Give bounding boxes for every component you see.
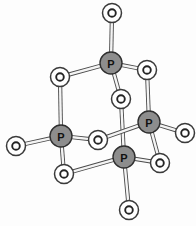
atom-oxygen-bridge-lower-left[interactable] — [55, 165, 74, 184]
bond-o3-p3 — [147, 78, 148, 113]
bond-p2-o7 — [70, 137, 90, 139]
bond-o4-p4 — [121, 107, 123, 148]
atom-phosphorus-right[interactable]: P — [138, 111, 160, 133]
bond-o2-p2 — [60, 85, 61, 127]
bond-p2-o9 — [62, 145, 64, 166]
atom-oxygen-terminal-far-left[interactable] — [7, 137, 26, 156]
bond-p1-o1 — [111, 21, 112, 54]
molecule-canvas: PPPP — [0, 0, 196, 226]
atom-oxygen-bridge-upper-right[interactable] — [138, 61, 157, 80]
molecule-figure: PPPP — [0, 0, 196, 226]
atom-phosphorus-top[interactable]: P — [100, 52, 122, 74]
atom-phosphorus-bottom[interactable]: P — [113, 146, 135, 168]
atom-oxygen-terminal-top[interactable] — [103, 4, 122, 23]
atom-oxygen-bridge-center[interactable] — [112, 90, 131, 109]
atom-oxygen-terminal-bottom[interactable] — [120, 201, 139, 220]
atom-oxygen-bridge-middle[interactable] — [89, 131, 108, 150]
figure-background — [0, 0, 196, 226]
atom-oxygen-terminal-far-right[interactable] — [176, 124, 195, 143]
atom-oxygen-bridge-upper-left[interactable] — [51, 68, 70, 87]
atom-phosphorus-left[interactable]: P — [50, 125, 72, 147]
atom-oxygen-bridge-lower-right[interactable] — [151, 154, 170, 173]
